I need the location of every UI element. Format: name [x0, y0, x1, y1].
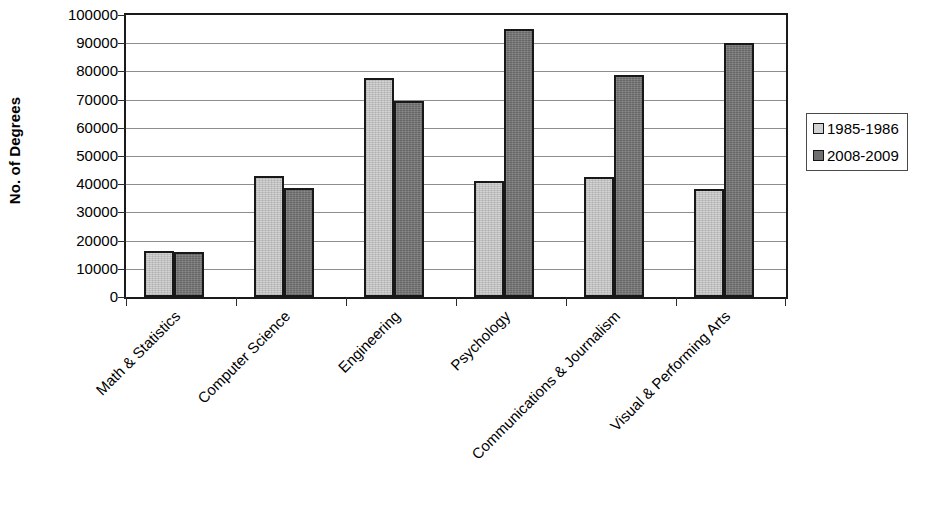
x-axis-category-label-text: Psychology — [448, 308, 513, 373]
y-axis-tick-label: 50000 — [30, 148, 118, 163]
y-axis-title-text: No. of Degrees — [7, 96, 24, 203]
bar — [364, 78, 394, 297]
gridline — [126, 71, 786, 72]
legend: 1985-1986 2008-2009 — [806, 113, 908, 171]
bar-group — [254, 15, 314, 297]
gridline — [126, 128, 786, 129]
y-axis-tick-mark — [118, 212, 126, 213]
y-axis-tick-mark — [118, 184, 126, 185]
y-axis-tick-labels: 0100002000030000400005000060000700008000… — [30, 13, 118, 295]
y-axis-tick-mark — [118, 297, 126, 298]
bar-group — [584, 15, 644, 297]
bar — [394, 101, 424, 297]
gridline — [126, 100, 786, 101]
x-axis-category-label-text: Computer Science — [195, 308, 293, 406]
y-axis-tick-mark — [118, 269, 126, 270]
legend-swatch-icon — [813, 123, 824, 134]
legend-item: 2008-2009 — [813, 148, 899, 163]
y-axis-tick-label: 40000 — [30, 176, 118, 191]
bar — [144, 251, 174, 297]
y-axis-tick-label: 90000 — [30, 35, 118, 50]
y-axis-tick-mark — [118, 128, 126, 129]
y-axis-tick-mark — [118, 43, 126, 44]
y-axis-tick-label: 30000 — [30, 204, 118, 219]
y-axis-tick-mark — [118, 241, 126, 242]
bar-group — [694, 15, 754, 297]
x-axis-category-label-text: Math & Statistics — [93, 308, 183, 398]
y-axis-tick-mark — [118, 71, 126, 72]
y-axis-tick-mark — [118, 15, 126, 16]
x-axis-category-labels: Math & StatisticsComputer ScienceEnginee… — [0, 300, 931, 505]
y-axis-tick-label: 20000 — [30, 232, 118, 247]
legend-swatch-icon — [813, 150, 824, 161]
legend-item-label: 1985-1986 — [827, 121, 899, 136]
bar — [584, 177, 614, 297]
bar-group — [474, 15, 534, 297]
y-axis-tick-label: 60000 — [30, 119, 118, 134]
y-axis-tick-label: 100000 — [30, 7, 118, 22]
y-axis-tick-label: 80000 — [30, 63, 118, 78]
legend-item: 1985-1986 — [813, 121, 899, 136]
x-axis-category-label-text: Engineering — [335, 308, 402, 375]
gridline — [126, 212, 786, 213]
gridline — [126, 156, 786, 157]
y-axis-title: No. of Degrees — [2, 60, 28, 240]
bar — [504, 29, 534, 297]
bar-chart: No. of Degrees 0100002000030000400005000… — [0, 0, 931, 510]
legend-item-label: 2008-2009 — [827, 148, 899, 163]
y-axis-tick-mark — [118, 100, 126, 101]
bar — [614, 75, 644, 297]
bar-group — [144, 15, 204, 297]
gridline — [126, 43, 786, 44]
y-axis-tick-label: 70000 — [30, 91, 118, 106]
bar-group — [364, 15, 424, 297]
x-axis-category-label-text: Visual & Performing Arts — [607, 308, 732, 433]
bar — [474, 181, 504, 297]
gridline — [126, 184, 786, 185]
y-axis-tick-label: 10000 — [30, 260, 118, 275]
y-axis-tick-mark — [118, 156, 126, 157]
